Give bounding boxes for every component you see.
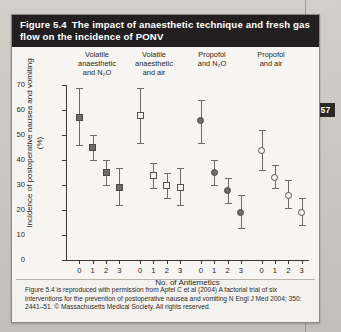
data-point-marker <box>211 169 218 176</box>
data-point-marker <box>298 209 305 216</box>
x-tick <box>153 260 154 264</box>
error-bar-cap <box>103 185 110 186</box>
group-header-3: Propofoland air <box>234 50 308 68</box>
x-tick-label: 0 <box>196 266 206 275</box>
y-tick <box>62 85 66 86</box>
group-header-line: and air <box>234 59 308 68</box>
y-axis-title-text: Incidence of postoperative nausea and vo… <box>25 58 45 228</box>
error-bar-cap <box>116 168 123 169</box>
figure-container: Figure 5.4The impact of anaesthetic tech… <box>11 14 320 323</box>
group-header-line: and air <box>117 68 191 77</box>
y-tick-label: 0 <box>11 256 25 264</box>
x-tick <box>302 260 303 264</box>
error-bar-cap <box>198 100 205 101</box>
error-bar-cap <box>259 130 266 131</box>
data-point-marker <box>271 174 278 181</box>
x-tick <box>167 260 168 264</box>
error-bar-cap <box>285 208 292 209</box>
error-bar-cap <box>90 135 97 136</box>
error-bar-cap <box>150 163 157 164</box>
y-tick <box>62 210 66 211</box>
data-point-marker <box>137 112 144 119</box>
error-bar-cap <box>116 205 123 206</box>
x-tick-label: 2 <box>162 266 172 275</box>
x-tick <box>262 260 263 264</box>
data-point-marker <box>89 144 96 151</box>
x-tick-label: 3 <box>175 266 185 275</box>
x-tick-label: 2 <box>283 266 293 275</box>
error-bar-cap <box>211 160 218 161</box>
figure-caption: Figure 5.4 is reproduced with permission… <box>16 279 315 312</box>
x-tick <box>201 260 202 264</box>
x-tick-label: 1 <box>209 266 219 275</box>
data-point-marker <box>163 182 170 189</box>
error-bar-cap <box>299 225 306 226</box>
figure-header: Figure 5.4The impact of anaesthetic tech… <box>12 15 319 47</box>
error-bar-cap <box>137 143 144 144</box>
x-tick-label: 3 <box>114 266 124 275</box>
figure-number: Figure 5.4 <box>20 19 67 30</box>
error-bar-cap <box>164 173 171 174</box>
error-bar-cap <box>164 198 171 199</box>
x-tick <box>180 260 181 264</box>
x-tick-label: 3 <box>236 266 246 275</box>
chart-plot-area: Incidence of postoperative nausea and vo… <box>12 47 319 279</box>
error-bar-cap <box>90 160 97 161</box>
y-tick <box>62 185 66 186</box>
error-bar-cap <box>198 143 205 144</box>
error-bar-cap <box>272 188 279 189</box>
y-tick <box>62 135 66 136</box>
x-tick-label: 1 <box>148 266 158 275</box>
error-bar-cap <box>76 88 83 89</box>
x-tick-label: 2 <box>223 266 233 275</box>
y-axis-title: Incidence of postoperative nausea and vo… <box>25 58 45 228</box>
error-bar-cap <box>137 88 144 89</box>
y-tick-label: 70 <box>11 81 25 89</box>
x-tick-label: 0 <box>74 266 84 275</box>
error-bar-cap <box>299 198 306 199</box>
x-tick <box>106 260 107 264</box>
error-bar-cap <box>177 168 184 169</box>
y-tick <box>62 260 66 261</box>
x-tick <box>119 260 120 264</box>
x-tick <box>241 260 242 264</box>
data-point-marker <box>150 172 157 179</box>
x-tick <box>79 260 80 264</box>
x-tick-label: 3 <box>297 266 307 275</box>
error-bar-cap <box>225 178 232 179</box>
error-bar-cap <box>238 195 245 196</box>
error-bar-cap <box>225 203 232 204</box>
x-tick <box>140 260 141 264</box>
data-point-marker <box>197 117 204 124</box>
x-axis-line <box>66 260 309 261</box>
x-tick-label: 0 <box>257 266 267 275</box>
error-bar-cap <box>103 160 110 161</box>
group-header-line: Propofol <box>234 50 308 59</box>
error-bar-cap <box>211 185 218 186</box>
error-bar-cap <box>177 205 184 206</box>
error-bar-cap <box>76 145 83 146</box>
x-tick <box>275 260 276 264</box>
x-tick-label: 2 <box>101 266 111 275</box>
x-tick-label: 1 <box>88 266 98 275</box>
y-tick-label: 40 <box>11 156 25 164</box>
error-bar-cap <box>272 165 279 166</box>
y-tick <box>62 160 66 161</box>
y-tick-label: 50 <box>11 131 25 139</box>
data-point-marker <box>224 187 231 194</box>
data-point-marker <box>76 114 83 121</box>
data-point-marker <box>237 209 244 216</box>
y-axis-line <box>66 85 67 260</box>
error-bar-cap <box>238 228 245 229</box>
y-tick-label: 30 <box>11 181 25 189</box>
error-bar-cap <box>150 188 157 189</box>
data-point-marker <box>177 184 184 191</box>
x-tick <box>93 260 94 264</box>
data-point-marker <box>116 184 123 191</box>
x-tick <box>228 260 229 264</box>
y-tick-label: 60 <box>11 106 25 114</box>
y-tick <box>62 110 66 111</box>
x-tick <box>288 260 289 264</box>
error-bar-cap <box>259 170 266 171</box>
book-page: 57 Figure 5.4The impact of anaesthetic t… <box>0 0 341 332</box>
